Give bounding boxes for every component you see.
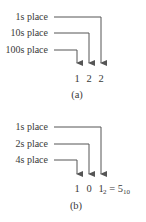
label-1s-place: 1s place <box>0 12 48 22</box>
label-10s-place: 10s place <box>0 28 48 38</box>
arrow-100s-place <box>54 50 77 63</box>
binary-equation: 2 = 510 <box>103 183 130 194</box>
digit-ones: 2 <box>96 73 106 84</box>
base-10-subscript: 10 <box>123 188 130 196</box>
binary-digit-twos: 0 <box>84 183 94 194</box>
caption-b: (b) <box>61 200 91 211</box>
label-100s-place: 100s place <box>0 45 48 55</box>
caption-a: (a) <box>62 89 92 100</box>
equals-sign: = <box>109 183 115 194</box>
digit-tens: 2 <box>84 73 94 84</box>
arrow-4s-place <box>54 160 77 174</box>
label-4s-place: 4s place <box>0 155 48 165</box>
digit-hundreds: 1 <box>72 73 82 84</box>
label-1s-place-binary: 1s place <box>0 122 48 132</box>
figure-b-binary-place-values: 1s place 2s place 4s place 1 0 1 2 = 510… <box>0 111 146 222</box>
arrow-2s-place <box>54 144 89 174</box>
arrow-10s-place <box>54 33 89 63</box>
binary-digit-fours: 1 <box>72 183 82 194</box>
base-2-subscript: 2 <box>103 188 107 196</box>
label-2s-place: 2s place <box>0 139 48 149</box>
figure-a-decimal-place-values: 1s place 10s place 100s place 1 2 2 (a) <box>0 0 146 111</box>
